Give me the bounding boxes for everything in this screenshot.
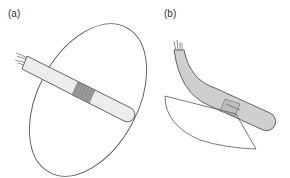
panel-a-diagram [5,4,170,178]
diagram-canvas [0,0,290,178]
probe-body-b [174,50,276,131]
panel-b-diagram [165,40,276,149]
